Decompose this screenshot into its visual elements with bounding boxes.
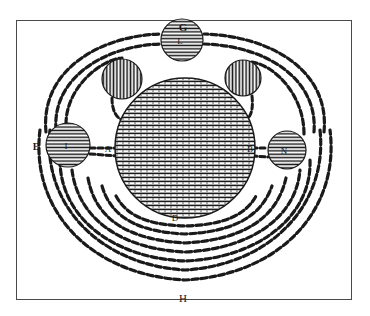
- central-sphere: [115, 78, 255, 218]
- label-b: B: [247, 144, 253, 154]
- label-e: E: [33, 141, 40, 152]
- label-d: D: [172, 213, 179, 223]
- label-l: L: [177, 36, 183, 46]
- vortex-diagram: G E H D A B L I N: [0, 0, 370, 316]
- label-h: H: [179, 292, 187, 304]
- sphere-upper-left: [102, 59, 142, 99]
- sphere-upper-right: [225, 60, 261, 96]
- label-g: G: [179, 21, 188, 33]
- label-i: I: [65, 141, 68, 151]
- diagram-figure: G E H D A B L I N: [0, 0, 370, 316]
- sphere-left-i: [46, 123, 90, 167]
- label-a: A: [105, 144, 112, 154]
- label-n: N: [281, 146, 288, 156]
